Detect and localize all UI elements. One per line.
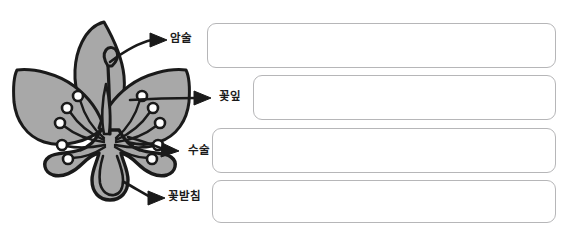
answer-box-stamen[interactable]	[212, 128, 556, 173]
callout-label-stamen: 수술	[188, 145, 210, 157]
callout-label-pistil: 암술	[170, 33, 192, 45]
worksheet-canvas: 암술 꽃잎 수술 꽃받침	[0, 0, 569, 231]
flower-cross-section-diagram	[0, 0, 240, 231]
pistil-lower-swell	[102, 84, 110, 134]
arrow-to-petal-head	[194, 91, 211, 105]
anther-l4	[57, 140, 67, 150]
answer-box-sepal[interactable]	[212, 180, 556, 223]
callout-label-sepal: 꽃받침	[168, 191, 200, 203]
callout-label-petal: 꽃잎	[219, 91, 241, 103]
anther-l3	[55, 118, 65, 128]
answer-box-petal[interactable]	[253, 75, 556, 120]
anther-l1	[73, 91, 83, 101]
arrow-to-sepal-head	[148, 191, 165, 205]
anther-r3	[155, 118, 165, 128]
arrow-to-pistil-head	[150, 33, 167, 47]
anther-l2	[62, 103, 72, 113]
answer-box-pistil[interactable]	[207, 23, 556, 68]
anther-l5	[63, 154, 73, 164]
anther-r2	[148, 103, 158, 113]
anther-r5	[147, 154, 157, 164]
